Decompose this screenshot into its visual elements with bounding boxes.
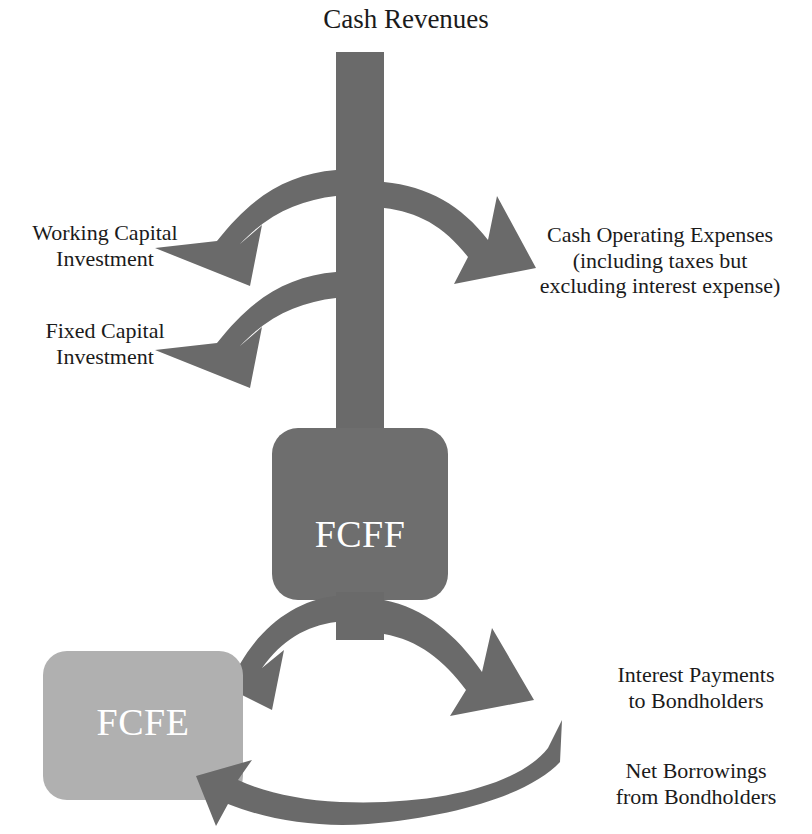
label-interest-payments-to-bondholders: Interest Payments to Bondholders [580, 662, 812, 713]
fcff-node-label: FCFF [272, 512, 448, 556]
label-fixed-capital-investment: Fixed Capital Investment [0, 318, 210, 369]
fcfe-node-label: FCFE [43, 700, 243, 744]
label-net-borrowings-from-bondholders: Net Borrowings from Bondholders [580, 758, 812, 809]
arrow-interest-payments [384, 600, 534, 716]
arrow-net-borrowings [196, 720, 562, 826]
label-cash-revenues: Cash Revenues [196, 4, 616, 35]
fcff-outflow-stem [336, 592, 384, 640]
diagram-canvas: Cash Revenues Working Capital Investment… [0, 0, 812, 834]
label-cash-operating-expenses: Cash Operating Expenses (including taxes… [508, 222, 812, 299]
label-working-capital-investment: Working Capital Investment [0, 220, 210, 271]
trunk-main-flow [336, 52, 384, 452]
